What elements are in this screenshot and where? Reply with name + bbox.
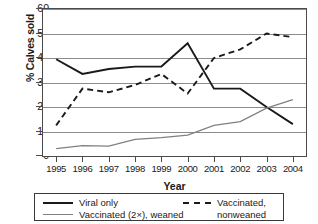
x-axis-tick-mark (267, 157, 268, 162)
x-axis-tick-mark (135, 157, 136, 162)
legend-label-vaccinated-nonweaned: Vaccinated, (217, 198, 266, 208)
x-axis-tick-mark (82, 157, 83, 162)
legend-swatch-viral-only (43, 202, 73, 204)
x-axis-tick-mark (214, 157, 215, 162)
line-chart: % Calves sold 0102030405060 199519961997… (0, 0, 318, 224)
series-line-vaccinated-nonweaned (56, 34, 293, 126)
x-axis-tick-mark (240, 157, 241, 162)
data-series-group (43, 9, 306, 156)
plot-area (42, 8, 307, 157)
chart-legend: Viral only Vaccinated (2×), weaned Vacci… (34, 193, 284, 221)
x-axis-tick-mark (56, 157, 57, 162)
x-axis-tick-mark (188, 157, 189, 162)
legend-label-vaccinated-nonweaned-line2: nonweaned (217, 210, 266, 220)
x-axis-tick-mark (161, 157, 162, 162)
x-axis-tick-mark (293, 157, 294, 162)
x-axis-tick-label: 2004 (276, 164, 310, 174)
x-axis-title: Year (42, 180, 307, 192)
legend-swatch-vaccinated-nonweaned (183, 202, 211, 204)
series-line-vaccinated-2-weaned (56, 100, 293, 149)
legend-label-viral-only: Viral only (79, 198, 118, 208)
legend-label-vaccinated-weaned: Vaccinated (2×), weaned (79, 210, 184, 220)
x-axis-tick-mark (109, 157, 110, 162)
legend-swatch-vaccinated-weaned (43, 214, 73, 215)
